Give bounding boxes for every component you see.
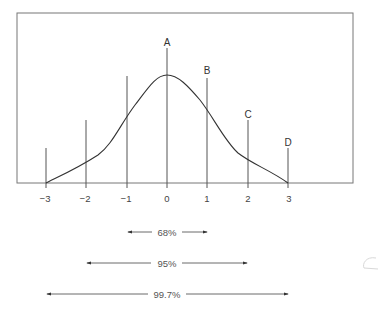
plot-frame [17, 13, 353, 183]
range-95-label: 95% [157, 258, 177, 269]
tick-neg2: −2 [80, 193, 91, 204]
label-c: C [244, 109, 251, 120]
label-d: D [284, 137, 291, 148]
normal-distribution-chart: A B C D −3 −2 −1 0 1 2 3 68% 95% 99.7% [0, 0, 392, 312]
range-997-label: 99.7% [154, 289, 181, 300]
label-b: B [204, 65, 211, 76]
sd-markers [46, 48, 288, 188]
range-68: 68% [128, 227, 207, 238]
range-95: 95% [87, 258, 247, 269]
range-997: 99.7% [47, 289, 288, 300]
tick-neg1: −1 [121, 193, 132, 204]
label-a: A [164, 37, 171, 48]
scan-mark [364, 258, 379, 269]
tick-3: 3 [286, 193, 291, 204]
range-68-label: 68% [157, 227, 177, 238]
tick-1: 1 [204, 193, 209, 204]
tick-0: 0 [164, 193, 169, 204]
tick-neg3: −3 [40, 193, 51, 204]
tick-2: 2 [245, 193, 250, 204]
